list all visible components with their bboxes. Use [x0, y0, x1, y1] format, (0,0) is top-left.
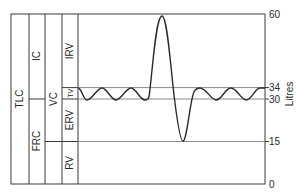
y-axis-title: Litres — [284, 82, 295, 106]
lung-volumes-diagram: TLC IC FRC VC IRV TV ERV RV 60 34 30 15 … — [0, 0, 301, 196]
label-erv: ERV — [64, 109, 75, 130]
label-ic: IC — [31, 51, 42, 61]
label-vc: VC — [48, 92, 59, 106]
label-frc: FRC — [31, 131, 42, 152]
tick-label-60: 60 — [269, 9, 281, 20]
label-rv: RV — [64, 156, 75, 170]
label-irv: IRV — [64, 42, 75, 59]
label-tlc: TLC — [14, 90, 25, 109]
tick-label-0: 0 — [269, 179, 275, 190]
tick-label-34: 34 — [269, 82, 281, 93]
label-tv: TV — [67, 89, 74, 98]
spirogram-trace — [78, 16, 265, 141]
tick-label-15: 15 — [269, 136, 281, 147]
tick-label-30: 30 — [269, 94, 281, 105]
